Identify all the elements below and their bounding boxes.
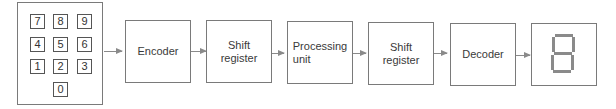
key-1: 1	[30, 59, 45, 74]
shift-register-block-2: Shift register	[368, 22, 434, 85]
processing-unit-label: Processing unit	[293, 40, 347, 66]
shift-register-1-label: Shift register	[221, 39, 258, 65]
encoder-block: Encoder	[125, 20, 191, 83]
arrow-decoder-display	[516, 55, 530, 56]
arrow-encoder-shift1	[191, 51, 206, 52]
key-7: 7	[30, 14, 45, 29]
decoder-label: Decoder	[462, 48, 504, 61]
arrow-keypad-encoder	[104, 51, 122, 52]
decoder-block: Decoder	[450, 23, 516, 86]
processing-unit-block: Processing unit	[287, 21, 353, 84]
key-5: 5	[53, 37, 68, 52]
shift-register-2-label: Shift register	[383, 41, 420, 67]
key-2: 2	[53, 59, 68, 74]
key-0: 0	[53, 82, 68, 97]
key-9: 9	[77, 14, 92, 29]
arrow-shift2-decoder	[434, 53, 447, 54]
key-8: 8	[53, 14, 68, 29]
arrow-shift1-processing	[272, 53, 284, 54]
key-6: 6	[77, 37, 92, 52]
key-3: 3	[77, 59, 92, 74]
arrow-processing-shift2	[353, 53, 366, 54]
key-4: 4	[30, 37, 45, 52]
shift-register-block-1: Shift register	[206, 20, 272, 83]
seven-segment-digit-icon	[550, 34, 578, 74]
encoder-label: Encoder	[138, 45, 179, 58]
